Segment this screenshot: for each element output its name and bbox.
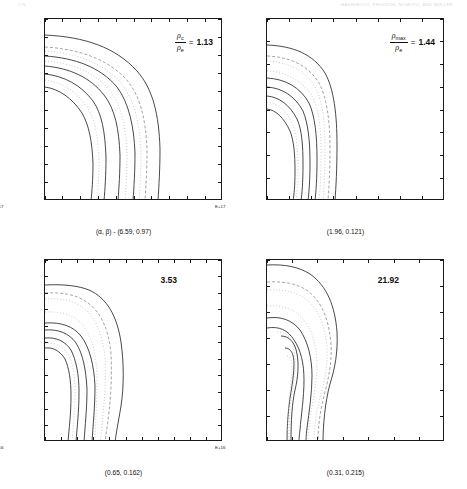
y-tick (267, 155, 270, 156)
y-tick-right (440, 312, 443, 313)
y-tick (45, 392, 48, 393)
y-tick (45, 359, 48, 360)
y-tick-right (218, 276, 221, 277)
y-tick (267, 338, 270, 339)
annotation-density-ratio-bottom-right: 21.92 (378, 275, 399, 285)
panel-bottom-right: 051015202530350.05.010.015.020.025.030.0… (240, 255, 451, 489)
x-tick-top (289, 19, 290, 22)
y-tick-right (440, 87, 443, 88)
plot-area-bottom-left[interactable]: 05101520253035404550550.05.010.015.020.0… (44, 259, 222, 441)
x-tick (169, 196, 170, 199)
x-tick (267, 437, 268, 440)
y-tick-right (440, 364, 443, 365)
x-tick-top (190, 260, 191, 263)
x-tick-top (356, 19, 357, 22)
ratio-value: 1.13 (196, 37, 213, 47)
x-tick-top (174, 260, 175, 263)
y-tick (45, 182, 48, 183)
y-tick-right (440, 19, 443, 20)
panel-top-left: 0123456789100.01.02.03.04.05.06.07.08.09… (18, 14, 229, 252)
y-tick (267, 312, 270, 313)
equals-sign: = (189, 38, 194, 47)
y-tick (45, 19, 48, 20)
y-tick-right (440, 338, 443, 339)
fraction-numerator: ρc (175, 32, 186, 43)
x-tick-top (267, 260, 268, 263)
x-tick-top (45, 260, 46, 263)
y-tick (45, 276, 48, 277)
y-tick (267, 19, 270, 20)
x-tick-top (45, 19, 46, 22)
y-tick-right (440, 286, 443, 287)
y-tick-right (440, 110, 443, 111)
x-tick (98, 196, 99, 199)
x-tick (205, 196, 206, 199)
y-tick-right (218, 309, 221, 310)
x-tick (343, 437, 344, 440)
y-tick-right (440, 155, 443, 156)
y-tick-right (218, 91, 221, 92)
ratio-value: 3.53 (160, 275, 177, 285)
y-tick-right (218, 146, 221, 147)
y-tick (267, 41, 270, 42)
running-head: 276 HASHIMOTO, ERIGUCHI, NOMOTO, AND MÜL… (0, 2, 467, 12)
x-tick-top (169, 19, 170, 22)
x-tick (151, 196, 152, 199)
x-tick-top (158, 260, 159, 263)
y-tick (267, 260, 270, 261)
y-tick-right (218, 326, 221, 327)
y-tick (45, 37, 48, 38)
y-tick (267, 364, 270, 365)
fraction-denominator: ρe (393, 43, 404, 53)
contour-lines-bottom-left (45, 260, 222, 441)
x-tick-top (116, 19, 117, 22)
y-tick-right (218, 375, 221, 376)
plot-area-bottom-right[interactable]: 051015202530350.05.010.015.020.025.030.0… (266, 259, 444, 441)
y-tick (45, 73, 48, 74)
x-tick (109, 437, 110, 440)
x-tick (174, 437, 175, 440)
x-tick (77, 437, 78, 440)
y-tick-right (218, 260, 221, 261)
y-tick-right (218, 182, 221, 183)
x-tick (394, 437, 395, 440)
x-tick (190, 437, 191, 440)
x-tick-top (126, 260, 127, 263)
x-tick (419, 437, 420, 440)
x-tick (292, 437, 293, 440)
rho-subscript-den: e (181, 46, 184, 52)
y-tick (45, 375, 48, 376)
x-tick (45, 437, 46, 440)
x-axis-exponent: E+17 (0, 204, 3, 209)
fraction-numerator: ρmax (390, 32, 408, 43)
x-tick (45, 196, 46, 199)
y-tick-right (218, 55, 221, 56)
x-tick-top (267, 19, 268, 22)
y-tick (45, 326, 48, 327)
x-tick (333, 196, 334, 199)
x-axis-exponent: E+17 (215, 204, 225, 209)
x-tick (400, 196, 401, 199)
x-tick-top (343, 260, 344, 263)
y-tick (45, 342, 48, 343)
caption-top-left: (α, β) - (6.59, 0.97) (18, 228, 229, 235)
x-tick (142, 437, 143, 440)
y-tick-right (440, 41, 443, 42)
annotation-density-ratio-bottom-left: 3.53 (160, 275, 177, 285)
y-tick-right (218, 342, 221, 343)
x-tick-top (61, 260, 62, 263)
y-tick-right (218, 164, 221, 165)
y-tick-right (218, 392, 221, 393)
y-tick (45, 293, 48, 294)
x-tick (311, 196, 312, 199)
ratio-value: 21.92 (378, 275, 399, 285)
x-tick-top (187, 19, 188, 22)
x-tick-top (422, 19, 423, 22)
panel-bottom-left: 05101520253035404550550.05.010.015.020.0… (18, 255, 229, 489)
y-tick-right (218, 359, 221, 360)
y-tick (267, 132, 270, 133)
x-tick-top (77, 260, 78, 263)
y-tick-right (440, 178, 443, 179)
x-tick-top (109, 260, 110, 263)
x-tick-top (378, 19, 379, 22)
